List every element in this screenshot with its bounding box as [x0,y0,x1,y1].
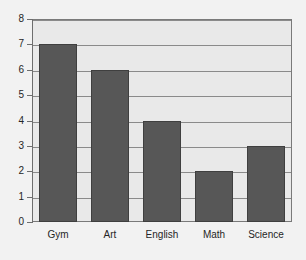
bar [91,70,129,222]
x-axis-tick-label: Math [188,229,240,240]
bars-layer [32,19,292,222]
y-axis-tick-label: 6 [0,65,24,75]
bar-chart: 012345678 GymArtEnglishMathScience [0,0,306,260]
y-axis-tick-label-text: 5 [4,90,24,100]
y-axis-tick-label: 8 [0,14,24,24]
y-axis-tick-label: 1 [0,192,24,202]
y-axis-tick [27,222,32,223]
y-axis-tick-label: 7 [0,39,24,49]
y-axis-tick-label-text: 2 [4,166,24,176]
bar [247,146,285,222]
y-axis-tick-label-text: 6 [4,65,24,75]
x-axis-tick-label: Science [240,229,292,240]
x-axis-tick-label: Art [84,229,136,240]
y-axis-tick-label-text: 7 [4,39,24,49]
y-axis-tick-label: 5 [0,90,24,100]
y-axis-tick-label: 2 [0,166,24,176]
y-axis-tick-label: 4 [0,116,24,126]
y-axis-tick-label-text: 4 [4,116,24,126]
bar [195,171,233,222]
y-axis-tick-label-text: 3 [4,141,24,151]
x-axis-tick-label: Gym [32,229,84,240]
bar [39,44,77,222]
y-axis-tick-label-text: 0 [4,217,24,227]
y-axis-tick-label: 3 [0,141,24,151]
y-axis-tick-label-text: 8 [4,14,24,24]
bar [143,121,181,223]
x-axis-tick-label: English [136,229,188,240]
y-axis-tick-label-text: 1 [4,192,24,202]
y-axis-tick-label: 0 [0,217,24,227]
